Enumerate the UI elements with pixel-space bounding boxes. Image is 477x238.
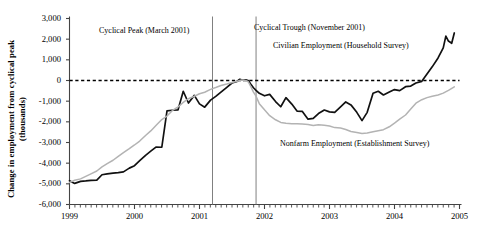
y-tick-label: 2,000: [15, 34, 61, 44]
x-tick-label: 2001: [180, 211, 220, 221]
x-tick-label: 2002: [245, 211, 285, 221]
chart-annotation: Cyclical Trough (November 2001): [254, 23, 365, 32]
x-tick-label: 2004: [375, 211, 415, 221]
y-tick-label: -3,000: [15, 137, 61, 147]
y-tick-label: -4,000: [15, 158, 61, 168]
y-tick-label: -6,000: [15, 199, 61, 209]
x-tick-label: 2005: [440, 211, 477, 221]
y-tick-label: -2,000: [15, 116, 61, 126]
chart-annotation: Cyclical Peak (March 2001): [99, 26, 189, 35]
y-tick-label: 0: [15, 75, 61, 85]
y-tick-label: 3,000: [15, 13, 61, 23]
employment-change-chart: Change in employment from cyclical peak …: [0, 0, 477, 238]
series-line-household: [70, 33, 455, 183]
x-tick-label: 2000: [115, 211, 155, 221]
y-tick-label: -5,000: [15, 178, 61, 188]
y-tick-label: -1,000: [15, 96, 61, 106]
x-tick-label: 1999: [50, 211, 90, 221]
plot-area: [0, 0, 477, 238]
y-tick-label: 1,000: [15, 54, 61, 64]
x-tick-label: 2003: [310, 211, 350, 221]
chart-annotation: Civilian Employment (Household Survey): [273, 41, 409, 50]
chart-annotation: Nonfarm Employment (Establishment Survey…: [280, 139, 430, 148]
